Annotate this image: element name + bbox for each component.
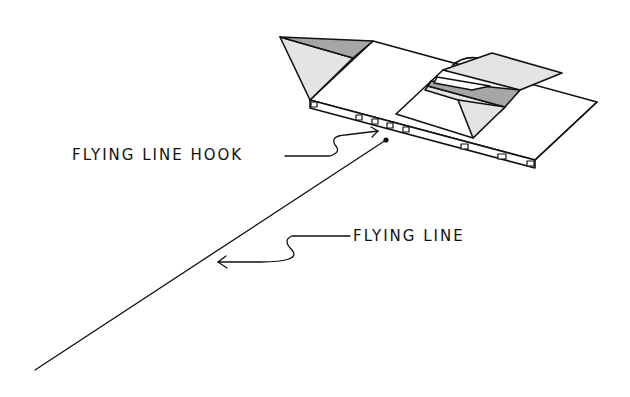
flying-line-hook-label: FLYING LINE HOOK <box>72 148 243 163</box>
hook-leader <box>285 131 378 156</box>
flying-line-label: FLYING LINE <box>353 229 465 244</box>
line-leader <box>218 236 350 262</box>
flying-line-hook <box>384 138 388 142</box>
kite-diagram <box>0 0 630 397</box>
flying-line <box>35 140 386 370</box>
